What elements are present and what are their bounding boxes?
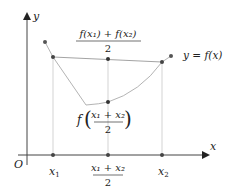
point-chord-mid	[106, 57, 110, 61]
curve-end-point	[169, 54, 173, 58]
chord-mid-numerator: f(x₁) + f(x₂)	[78, 28, 136, 39]
convexity-diagram: y x O y = f(x) f(x₁) + f(x₂) 2 f ( x₁ + …	[0, 0, 229, 194]
chord-mid-denominator: 2	[105, 43, 111, 54]
point-f-x2	[160, 60, 164, 64]
f-mid-numerator: x₁ + x₂	[91, 109, 125, 120]
point-mid-axis	[106, 153, 110, 157]
y-axis-label: y	[32, 10, 40, 23]
point-f-x1	[51, 55, 55, 59]
point-x1-axis	[51, 153, 55, 157]
f-mid-prefix: f	[76, 113, 84, 127]
f-mid-paren-close: )	[124, 107, 132, 131]
curve-label: y = f(x)	[182, 49, 222, 61]
point-x2-axis	[160, 153, 164, 157]
point-f-mid	[106, 100, 110, 104]
mid-numerator: x₁ + x₂	[91, 162, 125, 173]
curve-start-point	[43, 40, 47, 44]
x2-label: x2	[158, 165, 169, 179]
origin-label: O	[14, 158, 23, 171]
mid-denominator: 2	[105, 177, 111, 188]
x1-label: x1	[49, 165, 60, 179]
x-axis-label: x	[210, 140, 217, 153]
f-mid-denominator: 2	[105, 124, 111, 135]
